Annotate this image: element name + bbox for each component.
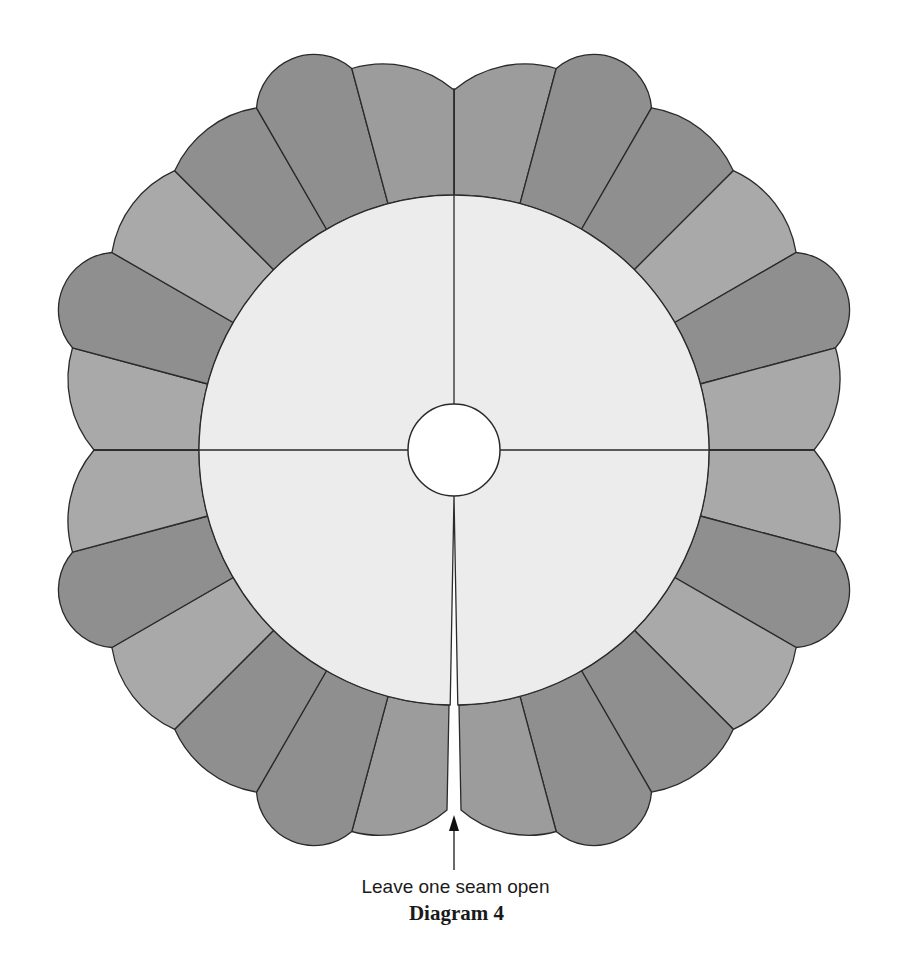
arrow-head-icon — [449, 815, 459, 831]
seam-arrow — [449, 815, 459, 870]
center-hole — [408, 404, 500, 496]
diagram-title: Diagram 4 — [3, 901, 907, 926]
dresden-plate-diagram — [0, 0, 907, 963]
seam-note-label: Leave one seam open — [2, 876, 907, 898]
